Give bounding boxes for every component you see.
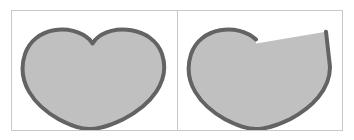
heart-clipped-svg xyxy=(178,11,344,130)
panel-right-clipped-heart xyxy=(178,11,344,130)
heart-complete-shape xyxy=(23,30,165,129)
panel-left-complete-heart xyxy=(12,11,178,130)
heart-complete-svg xyxy=(12,11,177,130)
figure-frame xyxy=(11,10,343,131)
heart-clipped-fill-shape xyxy=(189,30,330,129)
